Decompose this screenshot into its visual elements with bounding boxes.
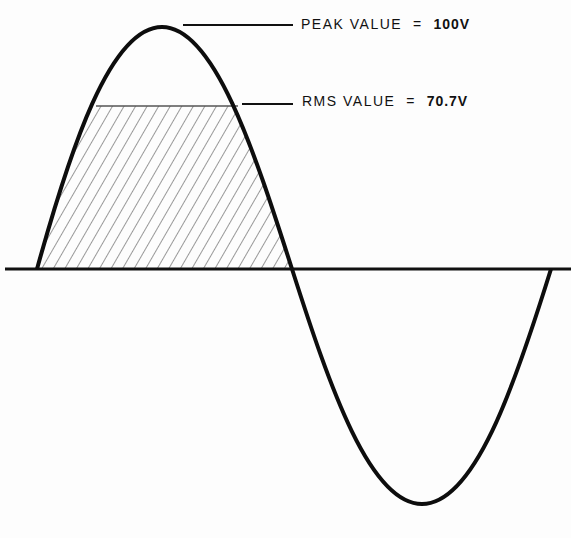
diagram-canvas	[0, 0, 571, 538]
peak-equals: =	[413, 16, 423, 32]
peak-value-label: PEAK VALUE = 100V	[301, 16, 470, 32]
sine-wave-diagram: PEAK VALUE = 100V RMS VALUE = 70.7V	[0, 0, 571, 538]
rms-hatched-area	[30, 106, 300, 269]
rms-equals: =	[406, 93, 416, 109]
rms-value: 70.7V	[427, 93, 469, 109]
rms-value-label: RMS VALUE = 70.7V	[302, 93, 468, 109]
peak-value: 100V	[433, 16, 470, 32]
rms-label-text: RMS VALUE	[302, 93, 395, 109]
peak-label-text: PEAK VALUE	[301, 16, 402, 32]
